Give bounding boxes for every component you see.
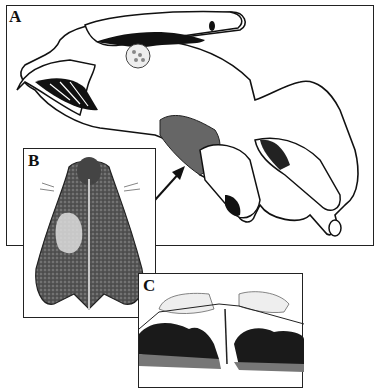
panel-b: B xyxy=(23,148,156,318)
compound-eye-icon xyxy=(126,44,150,68)
panel-c-section xyxy=(139,274,304,389)
panel-a-label: A xyxy=(9,8,21,25)
panel-c: C xyxy=(138,273,303,388)
